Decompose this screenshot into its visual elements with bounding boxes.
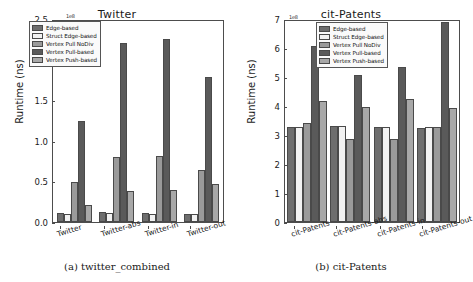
y-tick-mark — [52, 223, 55, 224]
bar — [163, 39, 170, 222]
y-axis-exponent-a: 1e8 — [66, 13, 75, 19]
x-tick-mark — [336, 226, 337, 229]
bar-group — [138, 21, 181, 222]
x-tick-mark — [190, 226, 191, 229]
y-tick-label: 4 — [275, 102, 280, 112]
bar — [362, 107, 370, 222]
bar — [417, 128, 425, 222]
bar — [113, 157, 120, 222]
legend-b: Edge-basedStruct Edge-basedVertex Pull N… — [316, 22, 388, 68]
bar — [57, 213, 64, 222]
bar — [346, 139, 354, 222]
bar — [85, 205, 92, 222]
bar — [99, 212, 106, 222]
bar — [106, 213, 113, 222]
y-tick-label: 2 — [275, 160, 280, 170]
x-axis-labels-b: cit-Patentscit-Patents-abscit-Patents-in… — [284, 226, 460, 266]
x-tick-mark — [60, 226, 61, 229]
legend-swatch-icon — [319, 34, 330, 40]
x-tick-mark — [380, 226, 381, 229]
x-tick-mark — [422, 226, 423, 229]
bar — [156, 156, 163, 222]
legend-item: Edge-based — [32, 24, 97, 32]
bar — [212, 184, 219, 222]
y-tick-mark — [52, 142, 55, 143]
x-axis-labels-a: TwitterTwitter-absTwitter-inTwitter-out — [52, 226, 224, 266]
legend-label: Vertex Pull NoDiv — [46, 41, 93, 47]
legend-label: Vertex Pull NoDiv — [333, 42, 380, 48]
legend-a: Edge-basedStruct Edge-basedVertex Pull N… — [29, 21, 101, 67]
legend-item: Vertex Pull NoDiv — [32, 40, 97, 48]
y-tick-label: 7 — [275, 15, 280, 25]
bar — [449, 108, 457, 222]
bar — [287, 127, 295, 222]
legend-label: Vertex Push-based — [333, 58, 384, 64]
bar — [71, 182, 78, 222]
subcaption-b: (b) cit-Patents — [234, 261, 468, 272]
legend-label: Vertex Pull-based — [46, 49, 94, 55]
bar — [149, 214, 156, 222]
y-tick-label: 6 — [275, 44, 280, 54]
legend-label: Struct Edge-based — [333, 34, 384, 40]
bar — [170, 190, 177, 222]
y-tick-mark — [284, 78, 287, 79]
bar — [78, 121, 85, 222]
legend-item: Vertex Pull NoDiv — [319, 41, 384, 49]
bar — [406, 99, 414, 222]
bar — [295, 127, 303, 222]
bar-group — [96, 21, 139, 222]
legend-swatch-icon — [32, 57, 43, 63]
x-tick-mark — [294, 226, 295, 229]
y-tick-mark — [52, 182, 55, 183]
y-tick-mark — [284, 165, 287, 166]
y-tick-label: 1.0 — [34, 137, 48, 147]
legend-item: Vertex Pull-based — [32, 48, 97, 56]
y-tick-mark — [284, 20, 287, 21]
bar — [441, 22, 449, 222]
bar — [184, 214, 191, 222]
y-tick-mark — [284, 223, 287, 224]
y-axis-label-b: Runtime (ns) — [246, 17, 257, 167]
bar — [191, 214, 198, 222]
bar — [390, 139, 398, 222]
bar — [198, 170, 205, 222]
legend-swatch-icon — [32, 33, 43, 39]
y-tick-label: 3 — [275, 131, 280, 141]
y-tick-mark — [284, 107, 287, 108]
legend-label: Vertex Pull-based — [333, 50, 381, 56]
bar — [64, 214, 71, 222]
bar — [398, 67, 406, 222]
bar — [338, 126, 346, 222]
y-tick-label: 0.0 — [34, 218, 48, 228]
legend-swatch-icon — [319, 58, 330, 64]
legend-label: Edge-based — [333, 26, 365, 32]
legend-item: Vertex Push-based — [32, 56, 97, 64]
y-tick-mark — [284, 136, 287, 137]
y-tick-label: 1.5 — [34, 96, 48, 106]
legend-item: Struct Edge-based — [32, 32, 97, 40]
legend-label: Struct Edge-based — [46, 33, 97, 39]
bar — [120, 43, 127, 222]
y-tick-label: 5 — [275, 73, 280, 83]
y-tick-mark — [284, 194, 287, 195]
bar — [311, 46, 319, 222]
bar — [425, 127, 433, 222]
bar-group — [416, 21, 460, 222]
legend-item: Struct Edge-based — [319, 33, 384, 41]
legend-label: Vertex Push-based — [46, 57, 97, 63]
x-tick-mark — [148, 226, 149, 229]
bar — [127, 191, 134, 222]
legend-swatch-icon — [319, 26, 330, 32]
bar — [382, 127, 390, 222]
bar-group — [181, 21, 224, 222]
bar — [205, 77, 212, 222]
subcaption-a: (a) twitter_combined — [0, 261, 234, 272]
y-tick-label: 0 — [275, 218, 280, 228]
y-tick-label: 0.5 — [34, 177, 48, 187]
legend-item: Edge-based — [319, 25, 384, 33]
y-tick-label: 1 — [275, 189, 280, 199]
legend-swatch-icon — [319, 42, 330, 48]
legend-swatch-icon — [32, 49, 43, 55]
legend-item: Vertex Pull-based — [319, 49, 384, 57]
